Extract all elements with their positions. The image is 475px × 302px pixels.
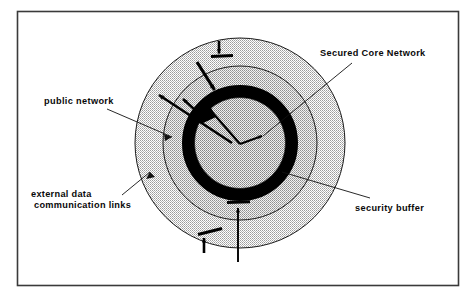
label-public-network: public network — [44, 96, 114, 106]
label-security-buffer: security buffer — [355, 203, 424, 213]
label-external-data-line2: communication links — [34, 200, 131, 210]
barrier-bottom — [227, 202, 250, 203]
label-external-data-line1: external data — [31, 189, 92, 199]
label-secured-core-network: Secured Core Network — [320, 48, 426, 58]
figure-root: Secured Core Network public network exte… — [0, 0, 475, 302]
network-diagram: Secured Core Network public network exte… — [0, 0, 475, 302]
barrier-top — [211, 55, 233, 56]
